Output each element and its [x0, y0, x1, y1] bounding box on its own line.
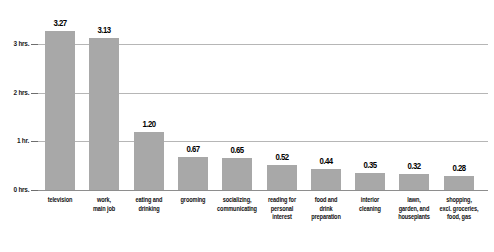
category-label-line: drink	[305, 205, 347, 214]
plot-area: 0 hrs.1 hr.2 hrs.3 hrs. 3.273.131.200.67…	[0, 0, 494, 252]
y-axis-tick: 1 hr.	[0, 136, 29, 146]
category-label-line: grooming	[172, 196, 214, 205]
category-label-line: eating and	[127, 196, 169, 205]
category-label-line: interest	[260, 213, 302, 222]
y-axis-tick-mark	[31, 141, 38, 142]
category-label-line: main job	[83, 205, 125, 214]
category-axis-label: food anddrinkpreparation	[305, 196, 347, 222]
gridline-0-hrs-	[38, 190, 488, 191]
bar-value-label: 0.32	[396, 160, 434, 171]
category-label-line: cleaning	[349, 205, 391, 214]
category-label-line: food, gas	[438, 213, 480, 222]
bar[interactable]	[444, 176, 474, 190]
bar-value-label: 3.27	[41, 17, 79, 28]
bar-value-label: 0.44	[307, 155, 345, 166]
bar-value-label: 0.28	[440, 162, 478, 173]
category-label-line: television	[39, 196, 81, 205]
bar-chart: 0 hrs.1 hr.2 hrs.3 hrs. 3.273.131.200.67…	[0, 0, 494, 252]
category-label-line: drinking	[127, 205, 169, 214]
category-label-line: shopping,	[438, 196, 480, 205]
y-axis-tick-mark	[31, 93, 38, 94]
category-axis-label: shopping,excl. groceries,food, gas	[438, 196, 480, 222]
bar[interactable]	[178, 157, 208, 190]
bar[interactable]	[311, 169, 341, 190]
category-label-line: lawn,	[393, 196, 435, 205]
category-axis-label: eating anddrinking	[127, 196, 169, 213]
bar[interactable]	[399, 174, 429, 190]
category-axis-label: interiorcleaning	[349, 196, 391, 213]
category-axis-label: work,main job	[83, 196, 125, 213]
bar[interactable]	[222, 158, 252, 190]
y-axis-tick: 0 hrs.	[0, 185, 29, 195]
y-axis-tick: 3 hrs.	[0, 39, 29, 49]
bar-value-label: 0.35	[351, 159, 389, 170]
bar[interactable]	[89, 38, 119, 190]
category-label-line: food and	[305, 196, 347, 205]
y-axis-tick-mark	[31, 190, 38, 191]
category-label-line: communicating	[216, 205, 258, 214]
y-axis-tick-label: 0 hrs.	[13, 185, 29, 194]
bar-value-label: 1.20	[130, 118, 168, 129]
category-label-line: work,	[83, 196, 125, 205]
y-axis-tick-label: 3 hrs.	[13, 39, 29, 48]
category-axis-label: television	[39, 196, 81, 205]
bar-value-label: 0.67	[174, 143, 212, 154]
category-label-line: houseplants	[393, 213, 435, 222]
category-axis-label: lawn,garden, andhouseplants	[393, 196, 435, 222]
bar[interactable]	[45, 31, 75, 190]
bar[interactable]	[267, 165, 297, 190]
category-label-line: reading for	[260, 196, 302, 205]
bar-value-label: 3.13	[85, 24, 123, 35]
y-axis-tick-mark	[31, 44, 38, 45]
category-label-line: preparation	[305, 213, 347, 222]
category-axis-label: reading forpersonalinterest	[260, 196, 302, 222]
y-axis-tick-label: 2 hrs.	[13, 88, 29, 97]
y-axis-tick-label: 1 hr.	[17, 136, 29, 145]
bar[interactable]	[355, 173, 385, 190]
category-axis-label: socializing,communicating	[216, 196, 258, 213]
bar-value-label: 0.65	[218, 144, 256, 155]
category-axis-label: grooming	[172, 196, 214, 205]
category-label-line: socializing,	[216, 196, 258, 205]
bar-value-label: 0.52	[263, 151, 301, 162]
bar[interactable]	[134, 132, 164, 190]
y-axis-tick: 2 hrs.	[0, 88, 29, 98]
category-label-line: interior	[349, 196, 391, 205]
category-label-line: excl. groceries,	[438, 205, 480, 214]
category-label-line: personal	[260, 205, 302, 214]
category-label-line: garden, and	[393, 205, 435, 214]
